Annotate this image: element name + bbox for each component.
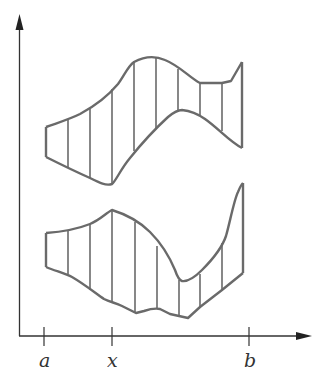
region-diagram: a x b — [0, 0, 327, 379]
x-axis-arrow-icon — [296, 332, 312, 340]
upper-region-slices — [68, 57, 222, 183]
label-a: a — [39, 349, 50, 371]
label-b: b — [244, 349, 256, 371]
y-axis-arrow-icon — [16, 14, 24, 30]
upper-region-bottom-curve — [46, 110, 242, 185]
upper-region — [46, 57, 242, 184]
lower-region-bottom-curve — [46, 267, 243, 318]
label-x: x — [107, 349, 118, 371]
lower-region-top-curve — [46, 183, 243, 281]
lower-region — [46, 183, 243, 318]
upper-region-top-curve — [46, 57, 242, 127]
